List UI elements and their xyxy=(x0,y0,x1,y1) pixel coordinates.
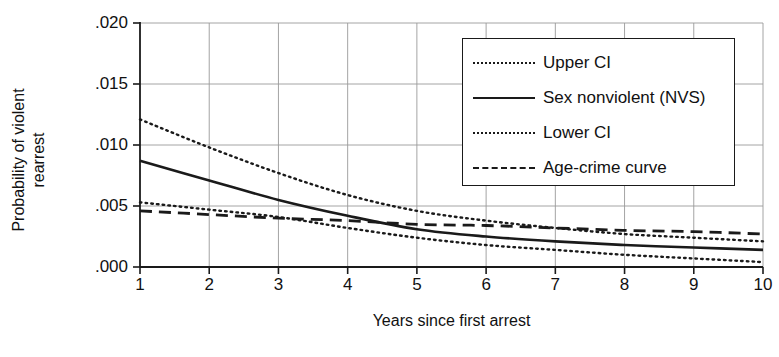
legend-key-line xyxy=(473,167,535,169)
x-tick-label: 2 xyxy=(189,276,229,293)
x-tick-label: 9 xyxy=(674,276,714,293)
dotted-line-key xyxy=(473,56,535,70)
x-axis-label: Years since first arrest xyxy=(140,312,763,330)
legend-item-label: Age-crime curve xyxy=(535,158,667,178)
legend-item-label: Upper CI xyxy=(535,53,611,73)
dashed-line-key xyxy=(473,161,535,175)
legend-item-label: Lower CI xyxy=(535,123,611,143)
x-tick-label: 5 xyxy=(397,276,437,293)
solid-line-key xyxy=(473,91,535,105)
series-line-age-crime-curve xyxy=(140,211,763,234)
legend-item: Sex nonviolent (NVS) xyxy=(463,80,734,115)
chart-legend: Upper CISex nonviolent (NVS)Lower CIAge-… xyxy=(462,38,735,186)
legend-key-line xyxy=(473,132,535,134)
dotted-line-key xyxy=(473,126,535,140)
legend-key-line xyxy=(473,62,535,64)
x-tick-label: 3 xyxy=(258,276,298,293)
legend-item-label: Sex nonviolent (NVS) xyxy=(535,88,706,108)
legend-item: Age-crime curve xyxy=(463,150,734,185)
x-tick-label: 8 xyxy=(605,276,645,293)
legend-key-line xyxy=(473,97,535,99)
x-tick-label: 4 xyxy=(328,276,368,293)
chart-figure: Probability of violent rearrest .020.015… xyxy=(0,0,779,357)
legend-item: Lower CI xyxy=(463,115,734,150)
legend-item: Upper CI xyxy=(463,45,734,80)
x-tick-label: 7 xyxy=(535,276,575,293)
x-tick-label: 10 xyxy=(743,276,779,293)
x-tick-label: 6 xyxy=(466,276,506,293)
x-tick-label: 1 xyxy=(120,276,160,293)
